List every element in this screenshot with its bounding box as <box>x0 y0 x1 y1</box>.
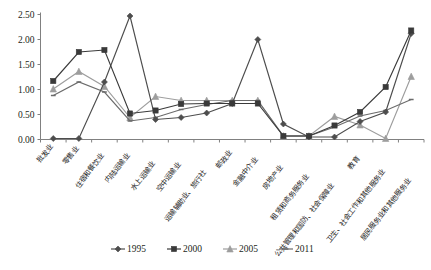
line-chart: 0.000.501.001.502.002.50 批发业零售业住宿和餐饮业内陆运… <box>0 0 431 270</box>
legend-item-2005[interactable]: 2005 <box>223 244 258 254</box>
legend-marker-2000 <box>171 246 176 251</box>
y-axis-tick-label: 0.50 <box>18 110 35 120</box>
data-point-1995-1 <box>76 136 82 142</box>
legend-item-2000[interactable]: 2000 <box>167 244 202 254</box>
data-point-1995-8 <box>255 37 261 43</box>
data-point-2000-10 <box>306 133 311 138</box>
x-axis-category-label: 教育 <box>346 154 362 171</box>
x-axis <box>41 140 425 143</box>
data-point-2005-13 <box>382 135 388 141</box>
series-1995 <box>50 13 414 142</box>
data-point-2005-0 <box>50 86 56 92</box>
x-axis-category-label: 零售业 <box>60 144 80 166</box>
data-point-2000-14 <box>409 28 414 33</box>
legend-label-2000: 2000 <box>183 244 202 254</box>
y-axis: 0.000.501.001.502.002.50 <box>18 10 41 145</box>
category-axis-labels: 批发业零售业住宿和餐饮业内陆运输业水上运输业空中运输业运输辅助业、旅行社邮政业金… <box>35 142 413 258</box>
data-point-1995-9 <box>280 121 286 127</box>
x-axis-category-label: 邮政业 <box>214 148 234 170</box>
x-axis-category-label: 空中运输业 <box>154 160 183 193</box>
y-axis-tick-label: 1.50 <box>18 60 35 70</box>
data-point-1995-6 <box>204 110 210 116</box>
y-axis-tick-label: 0.00 <box>18 135 35 145</box>
data-point-2000-7 <box>230 101 235 106</box>
data-series-group <box>50 13 414 142</box>
x-axis-category-label: 住宿和餐饮业 <box>73 151 106 190</box>
legend-item-1995[interactable]: 1995 <box>111 244 146 254</box>
series-line-1995 <box>53 16 411 139</box>
data-point-2000-13 <box>383 84 388 89</box>
data-point-2000-2 <box>102 47 107 52</box>
data-point-2000-6 <box>204 101 209 106</box>
data-point-2000-8 <box>255 101 260 106</box>
x-axis-category-label: 金融中介业 <box>231 155 260 188</box>
data-point-2000-4 <box>153 108 158 113</box>
y-axis-tick-label: 2.00 <box>18 35 35 45</box>
series-line-2000 <box>53 31 411 137</box>
x-axis-category-label: 内陆运输业 <box>103 151 132 184</box>
data-point-2000-11 <box>332 123 337 128</box>
legend-label-2011: 2011 <box>295 244 314 254</box>
x-axis-category-label: 批发业 <box>35 142 55 164</box>
data-point-2000-3 <box>127 111 132 116</box>
data-point-1995-12 <box>357 119 363 125</box>
data-point-2000-5 <box>179 101 184 106</box>
data-point-2000-1 <box>76 49 81 54</box>
data-point-1995-5 <box>178 115 184 121</box>
y-axis-tick-label: 2.50 <box>18 10 35 20</box>
data-point-2000-9 <box>281 133 286 138</box>
data-point-1995-2 <box>101 79 107 85</box>
data-point-2000-0 <box>51 78 56 83</box>
data-point-1995-0 <box>50 136 56 142</box>
data-point-2005-1 <box>76 68 82 74</box>
data-point-2005-14 <box>408 73 414 79</box>
legend-label-1995: 1995 <box>127 244 146 254</box>
chart-canvas: 0.000.501.001.502.002.50 批发业零售业住宿和餐饮业内陆运… <box>0 0 431 270</box>
legend-label-2005: 2005 <box>239 244 258 254</box>
x-axis-category-label: 卫生、社会工作和其他服务业 <box>324 167 387 244</box>
x-axis-category-label: 房地产业 <box>261 163 285 191</box>
data-point-2000-12 <box>357 109 362 114</box>
y-axis-tick-label: 1.00 <box>18 85 35 95</box>
x-axis-category-label: 水上运输业 <box>128 159 157 192</box>
data-point-2005-11 <box>331 113 337 119</box>
data-point-1995-3 <box>127 13 133 19</box>
legend-marker-1995 <box>115 246 121 252</box>
